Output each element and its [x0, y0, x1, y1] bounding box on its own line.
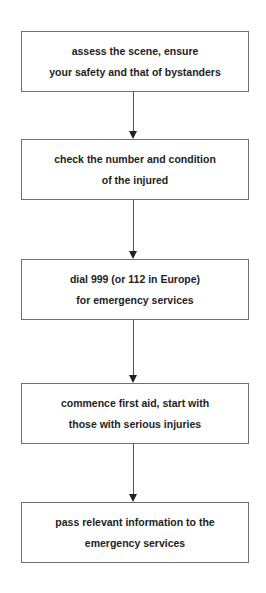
arrow-shaft: [133, 444, 134, 495]
step-4-line-1: commence first aid, start with: [61, 393, 209, 414]
step-3-dial-emergency-box: dial 999 (or 112 in Europe) for emergenc…: [21, 259, 249, 320]
step-5-line-2: emergency services: [85, 533, 185, 554]
step-1-line-2: your safety and that of bystanders: [49, 62, 221, 83]
arrow-shaft: [133, 92, 134, 132]
step-2-check-injured-box: check the number and condition of the in…: [21, 139, 249, 200]
arrow-shaft: [133, 320, 134, 376]
arrow-down-icon: [129, 494, 137, 502]
step-2-line-2: of the injured: [102, 170, 169, 191]
step-5-line-1: pass relevant information to the: [55, 512, 214, 533]
arrow-4-to-5: [132, 444, 134, 502]
step-1-assess-scene-box: assess the scene, ensure your safety and…: [21, 31, 249, 92]
arrow-1-to-2: [132, 92, 134, 139]
step-4-line-2: those with serious injuries: [69, 414, 201, 435]
arrow-down-icon: [129, 131, 137, 139]
arrow-3-to-4: [132, 320, 134, 383]
step-2-line-1: check the number and condition: [54, 149, 216, 170]
step-3-line-2: for emergency services: [76, 290, 193, 311]
step-3-line-1: dial 999 (or 112 in Europe): [70, 269, 200, 290]
arrow-down-icon: [129, 251, 137, 259]
step-4-first-aid-box: commence first aid, start with those wit…: [21, 383, 249, 444]
step-5-pass-information-box: pass relevant information to the emergen…: [21, 502, 249, 563]
arrow-2-to-3: [132, 200, 134, 259]
step-1-line-1: assess the scene, ensure: [72, 41, 199, 62]
arrow-shaft: [133, 200, 134, 252]
arrow-down-icon: [129, 375, 137, 383]
